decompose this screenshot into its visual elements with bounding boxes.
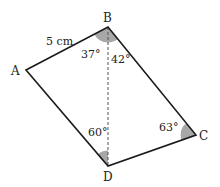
angle-label-ADB: 60° xyxy=(88,126,108,139)
side-length-AB: 5 cm xyxy=(46,35,74,48)
angle-label-DBC: 42° xyxy=(111,53,131,66)
angle-label-BCD: 63° xyxy=(159,121,179,134)
vertex-label-A: A xyxy=(10,64,20,78)
angle-label-ABD: 37° xyxy=(81,48,101,61)
vertex-label-C: C xyxy=(199,129,208,143)
vertex-label-B: B xyxy=(103,11,112,25)
vertex-label-D: D xyxy=(103,170,113,184)
quadrilateral-diagram: A B C D 5 cm 37° 42° 60° 63° xyxy=(0,0,220,187)
angle-sector-B-left xyxy=(94,27,108,43)
